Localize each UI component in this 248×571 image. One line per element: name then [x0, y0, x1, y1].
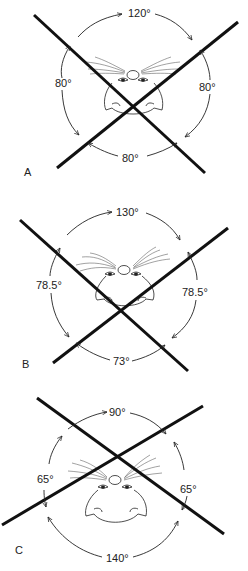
cat-head-icon: [68, 455, 162, 522]
angle-arc-left: [61, 46, 70, 78]
angle-label-bottom: 80°: [122, 152, 139, 164]
angle-arc-bottom: [76, 343, 110, 360]
angle-label-left: 65°: [37, 473, 54, 485]
angle-arc-bottom: [48, 517, 102, 557]
angle-arc-top: [67, 212, 112, 235]
axis-line-right: [2, 406, 203, 525]
axis-line-left: [20, 220, 188, 371]
axis-line-right: [57, 22, 238, 168]
cat-head-icon: [76, 247, 170, 306]
angle-label-bottom: 73°: [113, 355, 130, 367]
angle-arc-right: [174, 442, 184, 470]
angle-label-right: 80°: [199, 81, 216, 93]
panel-label-c: C: [15, 544, 23, 556]
angle-label-left: 80°: [55, 77, 72, 89]
panel-b: 130° 78.5° 78.5° 73° B: [20, 206, 228, 371]
angle-label-top: 90°: [109, 406, 126, 418]
axis-line-left: [34, 15, 205, 173]
angle-label-left: 78.5°: [36, 279, 62, 291]
angle-label-right: 78.5°: [182, 286, 208, 298]
angle-label-right: 65°: [180, 483, 197, 495]
angle-arc-bottom: [88, 143, 118, 156]
panel-a: 120° 80° 80° 80° A: [24, 7, 238, 178]
panel-label-b: B: [22, 358, 29, 370]
panel-label-a: A: [24, 166, 32, 178]
panel-c: 90° 65° 65° 140° C: [2, 398, 224, 564]
angle-arc-left: [49, 436, 62, 464]
angle-arc-top: [78, 14, 122, 37]
angle-label-top: 130°: [116, 206, 139, 218]
axis-line-left: [37, 398, 224, 534]
whisker-angle-diagram: 120° 80° 80° 80° A 130° 78.: [0, 0, 248, 571]
angle-arc-right: [200, 50, 210, 80]
angle-label-bottom: 140°: [106, 552, 129, 564]
angle-label-top: 120°: [128, 7, 151, 19]
